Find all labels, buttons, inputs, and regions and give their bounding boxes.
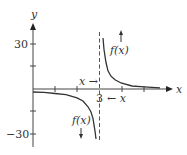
x-approach-right-label: ← x <box>107 92 127 105</box>
y-axis-arrow-icon <box>30 23 36 30</box>
y-axis-label: y <box>30 8 38 21</box>
fx-bottom-label: f(x) <box>71 114 91 127</box>
fx-top-label: f(x) <box>109 44 129 57</box>
x-approach-left-label: x → <box>79 75 98 88</box>
y-tick-label-neg30: −30 <box>6 128 29 141</box>
up-arrow-head-icon <box>119 30 123 35</box>
asymptote-label: 3 <box>96 92 103 105</box>
down-arrow-head-icon <box>79 134 83 139</box>
x-axis-label: x <box>176 83 183 96</box>
chart: y x 30 −30 3 f(x) f(x) x → ← x <box>0 0 187 155</box>
x-axis-arrow-icon <box>166 86 173 92</box>
y-tick-label-30: 30 <box>14 38 28 51</box>
